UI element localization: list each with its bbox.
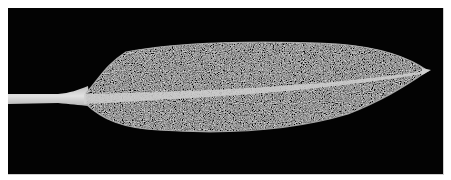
leaf-petiole bbox=[8, 86, 90, 106]
leaf-photo bbox=[8, 8, 443, 174]
photo-frame bbox=[8, 8, 444, 175]
